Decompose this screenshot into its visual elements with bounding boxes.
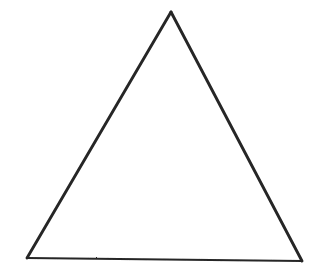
triangle-right-edge [171, 12, 302, 261]
triangle-left-edge [27, 12, 171, 258]
triangle-figure [0, 0, 322, 278]
drawing-canvas [0, 0, 322, 278]
triangle-base-edge [27, 258, 302, 261]
